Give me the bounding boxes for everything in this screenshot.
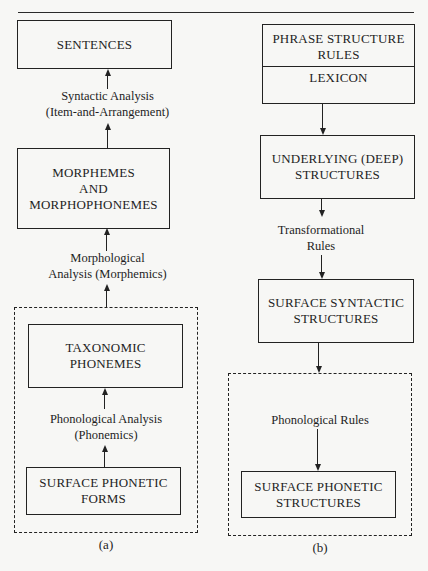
arrowhead-down-icon	[319, 210, 325, 217]
node-surface-phonetic-forms: SURFACE PHONETIC FORMS	[26, 467, 181, 515]
arrow-psr-to-deep	[322, 104, 323, 129]
node-morphemes: MORPHEMES AND MORPHOPHONEMES	[17, 148, 170, 229]
node-taxonomic-phonemes: TAXONOMIC PHONEMES	[28, 324, 183, 388]
arrowhead-up-icon	[105, 69, 111, 76]
edge-morphological-label: Morphological Analysis (Morphemics)	[17, 250, 198, 282]
arrowhead-up-icon	[104, 228, 110, 235]
arrowhead-down-icon	[316, 366, 322, 373]
node-deep-structures: UNDERLYING (DEEP) STRUCTURES	[260, 135, 415, 199]
caption-b: (b)	[300, 540, 340, 556]
top-rule	[18, 12, 414, 13]
node-phrase-structure-lexicon: PHRASE STRUCTURE RULES LEXICON	[262, 24, 415, 104]
arrow-phonological-bottom	[104, 450, 105, 467]
arrowhead-up-icon	[104, 284, 110, 291]
caption-a: (a)	[86, 537, 126, 553]
arrow-to-phonology	[318, 343, 319, 367]
arrowhead-down-icon	[320, 128, 326, 135]
edge-phonological-rules-label: Phonological Rules	[228, 412, 412, 428]
arrowhead-down-icon	[319, 272, 325, 279]
arrow-phonological-rules	[317, 429, 318, 465]
arrow-morphological-bottom	[106, 289, 107, 307]
arrowhead-down-icon	[315, 464, 321, 471]
node-surface-phonetic-structures: SURFACE PHONETIC STRUCTURES	[241, 471, 396, 518]
node-sentences-label: SENTENCES	[57, 37, 132, 53]
node-sentences: SENTENCES	[17, 20, 172, 69]
box-divider	[263, 66, 414, 67]
arrowhead-up-icon	[105, 123, 111, 130]
arrow-transformational-bottom	[321, 255, 322, 273]
edge-phonological-label: Phonological Analysis (Phonemics)	[14, 411, 198, 443]
edge-syntactic-label: Syntactic Analysis (Item-and-Arrangement…	[17, 88, 198, 120]
node-surface-syntactic-structures: SURFACE SYNTACTIC STRUCTURES	[258, 279, 414, 343]
arrow-morphological-top	[106, 233, 107, 251]
arrow-syntactic-bottom	[107, 128, 108, 148]
arrowhead-up-icon	[102, 445, 108, 452]
edge-transformational-label: Transformational Rules	[240, 222, 402, 254]
arrow-phonological-top	[104, 393, 105, 409]
arrowhead-up-icon	[102, 388, 108, 395]
